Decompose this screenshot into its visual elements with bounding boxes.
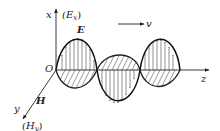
x-axis-label: x (46, 9, 52, 20)
h-wave-label: H (35, 95, 46, 106)
e-wave-label: E (76, 24, 85, 35)
x-field-open: (E (62, 9, 74, 20)
em-wave-diagram: O x (Ex) y (Hy) z E H v (0, 0, 220, 131)
y-field-label: (Hy) (22, 120, 43, 131)
y-field-close: ) (39, 120, 43, 131)
origin-label: O (45, 63, 53, 74)
y-field-open: (H (22, 120, 35, 131)
e-wave-arrows (62, 38, 173, 103)
y-axis-label: y (13, 103, 20, 114)
velocity-label: v (146, 18, 152, 29)
x-field-close: ) (77, 9, 81, 20)
z-axis-label: z (200, 73, 207, 84)
x-field-label: (Ex) (62, 9, 81, 22)
